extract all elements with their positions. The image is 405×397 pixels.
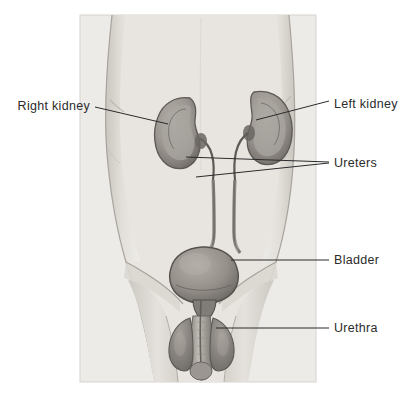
label-bladder: Bladder (334, 254, 379, 267)
label-urethra: Urethra (334, 322, 378, 335)
label-right-kidney: Right kidney (18, 100, 90, 113)
urinary-system-figure (0, 0, 405, 397)
label-left-kidney: Left kidney (334, 98, 398, 111)
label-ureters: Ureters (334, 157, 377, 170)
illustration-panel (80, 15, 316, 382)
scan-grain (80, 15, 316, 382)
